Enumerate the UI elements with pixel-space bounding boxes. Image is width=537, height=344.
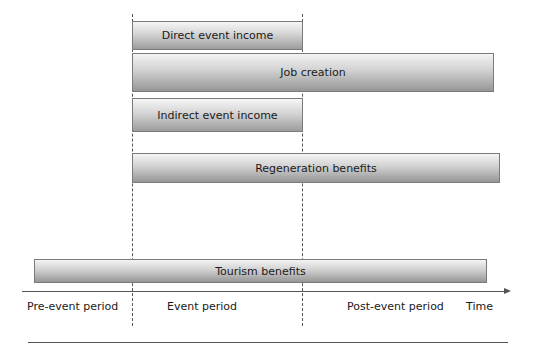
bar-direct-event-income: Direct event income: [132, 21, 303, 50]
time-axis: [22, 291, 504, 292]
bar-label: Indirect event income: [157, 109, 277, 122]
bar-label: Regeneration benefits: [255, 162, 377, 175]
axis-label-time: Time: [466, 300, 493, 313]
period-label-post-event: Post-event period: [347, 300, 444, 313]
bottom-rule: [28, 342, 508, 343]
period-label-pre-event: Pre-event period: [27, 300, 118, 313]
bar-tourism-benefits: Tourism benefits: [34, 259, 487, 283]
time-axis-arrow-icon: [504, 288, 511, 294]
bar-indirect-event-income: Indirect event income: [132, 98, 303, 132]
bar-label: Tourism benefits: [215, 265, 306, 278]
bar-regeneration-benefits: Regeneration benefits: [132, 153, 500, 183]
bar-label: Job creation: [280, 66, 345, 79]
period-label-event: Event period: [167, 300, 237, 313]
bar-job-creation: Job creation: [132, 53, 494, 92]
bar-label: Direct event income: [162, 29, 274, 42]
